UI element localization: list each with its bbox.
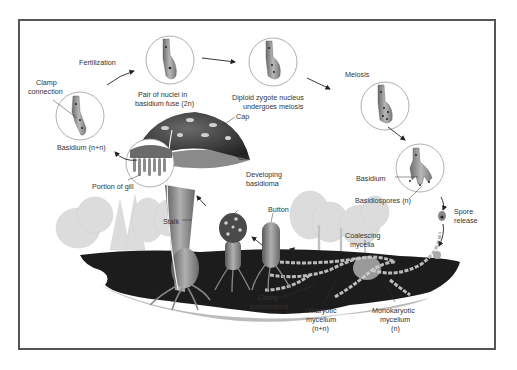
label-monokaryotic-3: (n) — [391, 324, 400, 333]
label-basidium: Basidium — [356, 174, 386, 183]
spore-icon — [433, 211, 446, 259]
label-portion-of-gill: Portion of gill — [92, 182, 134, 191]
coalescing-glow — [353, 256, 381, 280]
label-stalk: Stalk — [163, 217, 179, 226]
label-nuclei-fuse-1: Pair of nuclei in — [138, 90, 187, 99]
label-monokaryotic-2: mycelium — [380, 315, 410, 324]
label-spore-release-2: release — [454, 216, 478, 225]
label-button: Button — [268, 205, 289, 214]
label-gill: Gill — [238, 153, 248, 162]
label-spore-release-1: Spore — [454, 207, 473, 216]
label-nuclei-fuse-2: basidium fuse (2n) — [135, 99, 194, 108]
label-monokaryotic-1: Monokaryotic — [372, 306, 415, 315]
label-clamp-connection-2: connection — [28, 87, 63, 96]
label-basidium-nn: Basidium (n+n) — [57, 143, 106, 152]
label-clamp-connection-1: Clamp — [36, 78, 57, 87]
label-basidiospores: Basidiospores (n) — [355, 196, 411, 205]
label-dikaryotic-1: Dikaryotic — [305, 306, 337, 315]
label-meiosis: Meiosis — [345, 70, 369, 79]
label-zygote-1: Diploid zygote nucleus — [232, 93, 304, 102]
label-coalescing-1: Coalescing — [345, 231, 381, 240]
label-dikaryotic-2: mycelium — [306, 315, 336, 324]
label-coalescing-2: mycelia — [350, 240, 374, 249]
label-fertilization: Fertilization — [79, 58, 116, 67]
label-zygote-2: undergoes meiosis — [243, 102, 303, 111]
label-clamp-connections-2: connections — [250, 302, 288, 311]
label-developing-1: Developing — [246, 170, 282, 179]
label-developing-2: basidioma — [246, 179, 279, 188]
label-dikaryotic-3: (n+n) — [312, 324, 329, 333]
label-cap: Cap — [236, 112, 249, 121]
gill-detail-circle — [126, 139, 174, 187]
label-clamp-connections-1: Clamp — [258, 293, 279, 302]
